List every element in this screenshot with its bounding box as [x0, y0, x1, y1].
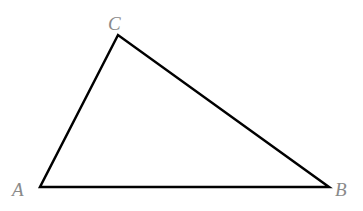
vertex-label-a: A	[12, 180, 24, 199]
triangle-abc	[40, 35, 329, 187]
vertex-label-c: C	[108, 14, 121, 33]
vertex-label-b: B	[335, 180, 347, 199]
triangle-svg	[0, 0, 363, 211]
triangle-diagram: C A B	[0, 0, 363, 211]
